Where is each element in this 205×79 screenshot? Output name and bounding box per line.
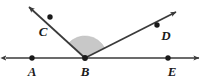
point-c-dot [47, 14, 52, 19]
ray-bc [29, 7, 85, 58]
point-d-label: D [160, 28, 171, 43]
point-a-dot [29, 55, 34, 60]
point-b-dot [82, 55, 88, 61]
geometry-canvas: A B C D E [0, 0, 205, 79]
point-e-dot [165, 55, 170, 60]
point-d-dot [154, 22, 159, 27]
point-b-label: B [80, 64, 90, 79]
point-c-label: C [39, 24, 48, 39]
geometry-diagram: A B C D E [0, 0, 205, 79]
point-a-label: A [27, 64, 37, 79]
point-e-label: E [167, 64, 177, 79]
